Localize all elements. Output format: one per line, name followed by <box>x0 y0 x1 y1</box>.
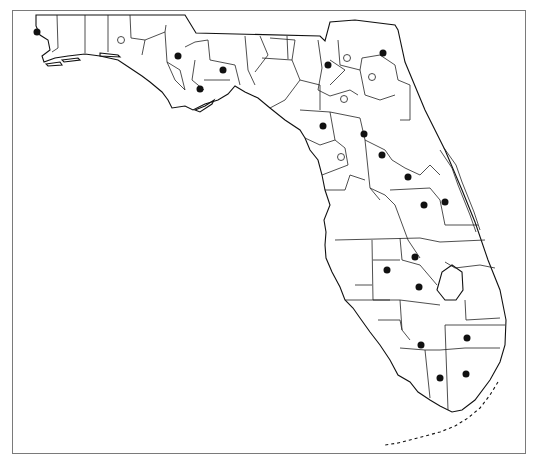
marker-filled <box>220 67 227 74</box>
florida-county-map <box>0 0 535 468</box>
marker-filled <box>34 29 41 36</box>
marker-open <box>369 74 376 81</box>
marker-open <box>118 37 125 44</box>
marker-filled <box>437 375 444 382</box>
marker-filled <box>464 335 471 342</box>
lagoon <box>440 150 476 232</box>
island <box>46 62 62 66</box>
marker-filled <box>325 62 332 69</box>
marker-filled <box>197 86 204 93</box>
island <box>100 53 120 57</box>
island <box>195 100 214 112</box>
marker-filled <box>418 342 425 349</box>
marker-filled <box>405 174 412 181</box>
marker-filled <box>361 131 368 138</box>
lake-okeechobee <box>437 265 463 300</box>
marker-filled <box>379 152 386 159</box>
marker-open <box>338 154 345 161</box>
marker-filled <box>175 53 182 60</box>
county-boundaries <box>52 15 505 410</box>
marker-filled <box>380 50 387 57</box>
marker-filled <box>384 267 391 274</box>
marker-open <box>344 55 351 62</box>
marker-filled <box>320 123 327 130</box>
island <box>62 58 80 62</box>
marker-filled <box>412 254 419 261</box>
marker-filled <box>421 202 428 209</box>
marker-filled <box>416 284 423 291</box>
marker-open <box>341 96 348 103</box>
marker-filled <box>442 199 449 206</box>
occurrence-markers <box>34 29 471 382</box>
florida-coastline <box>36 15 506 412</box>
marker-filled <box>463 371 470 378</box>
